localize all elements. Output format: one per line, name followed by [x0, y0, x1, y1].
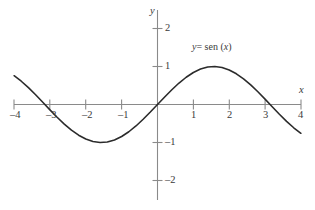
plot-canvas	[0, 0, 315, 210]
sine-function-graph-figure: –4 –3 –2 –1 1 2 3 4 2 1 –1 –2 y x y= sen…	[0, 0, 315, 210]
